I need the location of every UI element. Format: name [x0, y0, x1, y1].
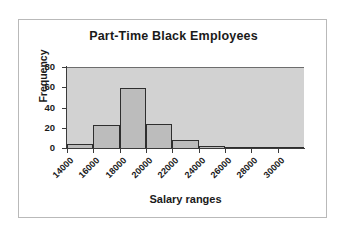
y-tick-label-0: 0 [25, 143, 55, 153]
x-tick-mark-22000 [172, 149, 173, 153]
y-tick-mark-40 [62, 108, 67, 109]
x-tick-mark-14000 [67, 149, 68, 153]
x-tick-mark-18000 [120, 149, 121, 153]
x-axis-title: Salary ranges [67, 193, 304, 205]
chart-frame: Part-Time Black Employees Frequency 0204… [18, 19, 327, 218]
x-tick-mark-26000 [225, 149, 226, 153]
x-tick-mark-16000 [93, 149, 94, 153]
x-tick-mark-28000 [251, 149, 252, 153]
x-tick-mark-30000 [278, 149, 279, 153]
bar-20000 [146, 124, 172, 149]
y-tick-label-40: 40 [25, 103, 55, 113]
bar-16000 [93, 125, 119, 149]
y-tick-label-60: 60 [25, 82, 55, 92]
y-tick-label-80: 80 [25, 62, 55, 72]
chart-title: Part-Time Black Employees [19, 29, 328, 43]
bar-18000 [120, 88, 146, 149]
y-tick-mark-80 [62, 67, 67, 68]
y-tick-label-20: 20 [25, 123, 55, 133]
x-axis-line [66, 148, 305, 149]
x-tick-mark-24000 [199, 149, 200, 153]
y-tick-mark-20 [62, 128, 67, 129]
y-tick-mark-60 [62, 87, 67, 88]
bars-layer [67, 68, 304, 149]
x-tick-mark-20000 [146, 149, 147, 153]
plot-area [67, 67, 304, 149]
